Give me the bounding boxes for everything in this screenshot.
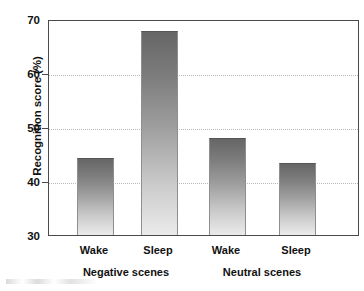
scan-artifact — [6, 279, 98, 284]
x-label-negative-wake: Wake — [80, 244, 108, 256]
group-label-negative-scenes: Negative scenes — [83, 266, 169, 278]
bar-negative-sleep — [141, 31, 178, 235]
y-tick-label-30: 30 — [8, 230, 40, 242]
x-label-negative-sleep: Sleep — [143, 244, 172, 256]
bar-neutral-wake — [209, 138, 246, 235]
y-tick-label-60: 60 — [8, 68, 40, 80]
gridline-60 — [49, 75, 358, 76]
y-tick-label-70: 70 — [8, 14, 40, 26]
bar-neutral-sleep — [279, 163, 316, 235]
y-tick-label-40: 40 — [8, 176, 40, 188]
bar-negative-wake — [77, 158, 114, 235]
group-label-neutral-scenes: Neutral scenes — [223, 266, 301, 278]
gridline-50 — [49, 129, 358, 130]
y-tick-label-50: 50 — [8, 122, 40, 134]
bar-chart-figure: Recognition score (%) 70 60 50 40 30 Wak… — [0, 0, 364, 291]
x-label-neutral-sleep: Sleep — [281, 244, 310, 256]
x-label-neutral-wake: Wake — [212, 244, 240, 256]
plot-area — [48, 20, 359, 236]
